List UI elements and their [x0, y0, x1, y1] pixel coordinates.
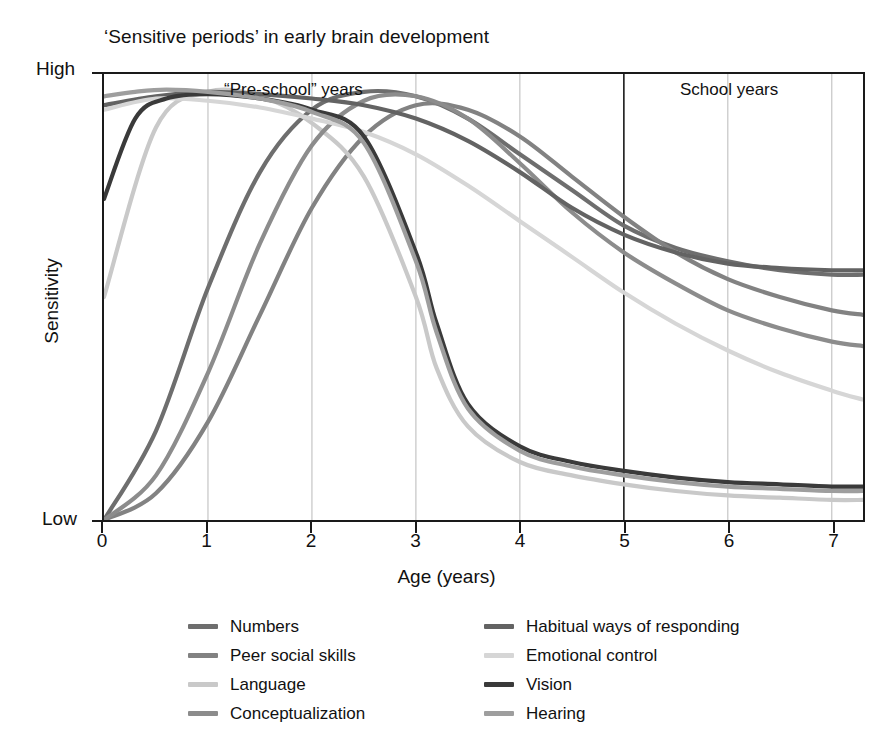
legend-label: Hearing [526, 704, 586, 724]
band-label-school: School years [680, 80, 778, 100]
legend-label: Language [230, 675, 306, 695]
x-tick-label-0: 0 [88, 530, 116, 552]
legend-swatch-icon [484, 682, 514, 687]
legend-item-conceptualization[interactable]: Conceptualization [188, 704, 484, 724]
legend-swatch-icon [188, 682, 218, 687]
x-tick-mark-1 [206, 522, 208, 533]
x-tick-mark-5 [624, 522, 626, 533]
legend-item-peer-social-skills[interactable]: Peer social skills [188, 646, 484, 666]
legend-label: Peer social skills [230, 646, 356, 666]
y-axis-high-label: High [36, 58, 75, 80]
series-line-conceptualization [104, 94, 863, 520]
x-tick-mark-4 [519, 522, 521, 533]
x-tick-mark-2 [310, 522, 312, 533]
legend-swatch-icon [188, 653, 218, 658]
legend-swatch-icon [188, 624, 218, 629]
legend-item-vision[interactable]: Vision [484, 675, 848, 695]
x-tick-label-4: 4 [506, 530, 534, 552]
chart-legend: NumbersHabitual ways of respondingPeer s… [188, 612, 848, 728]
band-label-preschool: “Pre-school” years [224, 80, 363, 100]
legend-item-emotional-control[interactable]: Emotional control [484, 646, 848, 666]
plot-area: “Pre-school” years School years [102, 72, 865, 522]
x-tick-label-3: 3 [402, 530, 430, 552]
x-tick-label-6: 6 [715, 530, 743, 552]
series-line-habitual-ways-of-responding [104, 92, 863, 271]
legend-label: Vision [526, 675, 572, 695]
x-tick-label-5: 5 [611, 530, 639, 552]
x-tick-label-1: 1 [193, 530, 221, 552]
legend-item-language[interactable]: Language [188, 675, 484, 695]
series-line-peer-social-skills [104, 103, 863, 520]
x-tick-mark-3 [415, 522, 417, 533]
chart-svg [104, 74, 863, 520]
x-tick-label-2: 2 [297, 530, 325, 552]
series-curves [104, 90, 863, 520]
legend-swatch-icon [484, 711, 514, 716]
legend-item-habitual-ways-of-responding[interactable]: Habitual ways of responding [484, 617, 848, 637]
legend-label: Conceptualization [230, 704, 365, 724]
legend-item-hearing[interactable]: Hearing [484, 704, 848, 724]
legend-swatch-icon [484, 653, 514, 658]
x-axis-title: Age (years) [0, 566, 893, 588]
legend-label: Emotional control [526, 646, 657, 666]
series-line-numbers [104, 91, 863, 520]
legend-item-numbers[interactable]: Numbers [188, 617, 484, 637]
x-tick-mark-7 [833, 522, 835, 533]
page-title: ‘Sensitive periods’ in early brain devel… [104, 26, 489, 48]
legend-swatch-icon [188, 711, 218, 716]
legend-swatch-icon [484, 624, 514, 629]
x-tick-mark-6 [728, 522, 730, 533]
y-axis-title: Sensitivity [41, 231, 63, 371]
chart-page: ‘Sensitive periods’ in early brain devel… [0, 0, 893, 736]
legend-label: Habitual ways of responding [526, 617, 740, 637]
legend-label: Numbers [230, 617, 299, 637]
x-tick-mark-0 [101, 522, 103, 533]
y-axis-low-label: Low [42, 508, 77, 530]
x-tick-label-7: 7 [820, 530, 848, 552]
